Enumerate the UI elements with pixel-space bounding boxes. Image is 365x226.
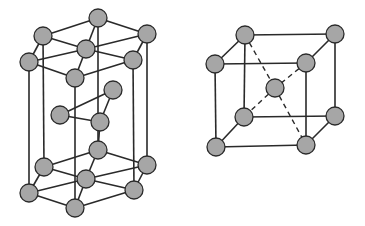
atom-circle (20, 184, 38, 202)
atom-circle (66, 69, 84, 87)
bond-line (133, 60, 134, 190)
bond-line (215, 63, 306, 64)
atom-circle (51, 106, 69, 124)
atom-circle (206, 55, 224, 73)
atom-circle (91, 113, 109, 131)
atom-circle (89, 141, 107, 159)
atom-circle (138, 156, 156, 174)
atom-circle (104, 81, 122, 99)
bcc-unit-cell (206, 25, 344, 156)
bond-line (244, 35, 245, 117)
bond-line (215, 64, 216, 147)
atom-circle (35, 158, 53, 176)
atom-circle (326, 107, 344, 125)
hcp-unit-cell (20, 9, 156, 217)
atom-circle (266, 79, 284, 97)
atom-circle (236, 26, 254, 44)
atom-circle (124, 51, 142, 69)
bond-line (43, 36, 44, 167)
atom-circle (235, 108, 253, 126)
atom-circle (207, 138, 225, 156)
bond-line (245, 34, 335, 35)
atom-circle (297, 136, 315, 154)
bond-line (216, 145, 306, 147)
atom-circle (138, 25, 156, 43)
atom-circle (297, 54, 315, 72)
atom-circle (66, 199, 84, 217)
bond-line (244, 116, 335, 117)
atom-circle (77, 170, 95, 188)
atom-circle (34, 27, 52, 45)
crystal-structures-diagram (0, 0, 365, 226)
atom-circle (125, 181, 143, 199)
atom-circle (326, 25, 344, 43)
atom-circle (77, 40, 95, 58)
atom-circle (89, 9, 107, 27)
atom-circle (20, 53, 38, 71)
